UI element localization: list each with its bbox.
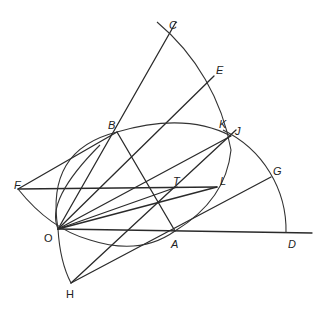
construction-canvas [0, 0, 328, 311]
point-label-D: D [288, 239, 296, 250]
line-O-T [58, 187, 177, 229]
line-B-A [117, 132, 175, 231]
point-label-T: T [173, 176, 180, 187]
line-H-J [71, 130, 236, 283]
line-O-D [58, 229, 312, 233]
line-O-L [58, 187, 217, 229]
arc-F-O-A [18, 189, 175, 246]
point-label-A: A [171, 239, 178, 250]
circle-O-B-K [56, 123, 231, 229]
point-label-G: G [273, 166, 282, 177]
point-label-H: H [66, 289, 74, 300]
point-label-O: O [44, 233, 53, 244]
point-label-B: B [108, 120, 115, 131]
point-label-J: J [235, 126, 241, 137]
point-label-K: K [219, 119, 226, 130]
line-F-L [18, 187, 217, 189]
point-label-L: L [220, 176, 226, 187]
point-label-F: F [14, 180, 21, 191]
geometric-diagram: C E B K J F T L G O A D H [0, 0, 328, 311]
point-label-C: C [169, 20, 177, 31]
arc-K-G-D-centered-A [223, 130, 286, 233]
line-F-B [18, 132, 117, 189]
point-label-E: E [216, 65, 223, 76]
